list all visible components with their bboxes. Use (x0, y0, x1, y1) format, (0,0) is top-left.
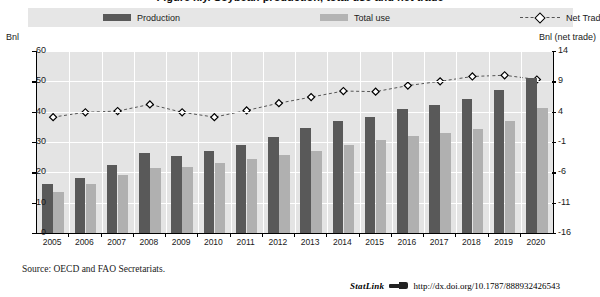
y-tick-right--11: -11 (558, 197, 592, 207)
x-tickmark-2019 (488, 233, 489, 237)
chart-title-clipped: Figure x.y. Soybean production, total us… (0, 0, 600, 3)
y-tick-right--16: -16 (558, 227, 592, 237)
y-tickmark-right--1 (552, 142, 556, 143)
y-tick-left-60: 60 (16, 45, 46, 55)
net-trade-marker-2018 (469, 73, 476, 80)
gridline-vertical (456, 51, 457, 233)
y-tick-left-40: 40 (16, 106, 46, 116)
gridline-vertical (360, 51, 361, 233)
y-axis-title-left: Bnl (6, 32, 19, 42)
x-tickmark-2010 (197, 233, 198, 237)
bar-total-use-2008 (150, 168, 161, 233)
net-trade-marker-2010 (211, 114, 218, 121)
bar-production-2012 (268, 137, 279, 233)
y-tickmark-right--16 (552, 233, 556, 234)
legend-item-net-trade: Net Trade (520, 13, 600, 23)
y-tickmark-right--11 (552, 203, 556, 204)
bar-production-2018 (462, 99, 473, 233)
gridline-vertical (102, 51, 103, 233)
statlink-label: StatLink (350, 281, 384, 291)
legend-label-production: Production (137, 13, 180, 23)
x-tick-label-2020: 2020 (516, 237, 556, 247)
bar-production-2015 (365, 117, 376, 233)
bar-production-2007 (107, 165, 118, 233)
net-trade-marker-2019 (501, 72, 508, 79)
legend-item-production: Production (103, 13, 180, 23)
y-tick-right-9: 9 (558, 75, 592, 85)
y-tickmark-left-60 (32, 51, 36, 52)
y-tickmark-left-10 (32, 203, 36, 204)
y-tick-right-14: 14 (558, 45, 592, 55)
legend-label-net-trade: Net Trade (566, 13, 600, 23)
bar-total-use-2019 (505, 121, 516, 233)
bar-production-2011 (236, 145, 247, 233)
bar-production-2017 (429, 105, 440, 233)
net-trade-marker-2014 (340, 88, 347, 95)
x-tickmark-2012 (262, 233, 263, 237)
bar-production-2010 (204, 151, 215, 233)
gridline-vertical (295, 51, 296, 233)
net-trade-marker-2016 (404, 82, 411, 89)
gridline-vertical (327, 51, 328, 233)
x-tickmark-2008 (133, 233, 134, 237)
bar-production-2005 (42, 184, 53, 233)
bar-production-2020 (526, 78, 537, 233)
y-tick-right-4: 4 (558, 106, 592, 116)
x-tickmark-2007 (101, 233, 102, 237)
bar-total-use-2006 (86, 184, 97, 233)
bar-production-2008 (139, 153, 150, 233)
y-tickmark-left-40 (32, 112, 36, 113)
net-trade-marker-2012 (275, 100, 282, 107)
bar-swatch-dark-icon (103, 14, 131, 21)
bar-production-2009 (171, 156, 182, 233)
bar-production-2014 (333, 121, 344, 233)
y-tickmark-right-4 (552, 112, 556, 113)
net-trade-marker-2008 (146, 101, 153, 108)
x-tickmark-2011 (230, 233, 231, 237)
bar-total-use-2005 (53, 192, 64, 233)
gridline-vertical (521, 51, 522, 233)
bar-production-2016 (397, 109, 408, 233)
y-tickmark-left-20 (32, 172, 36, 173)
net-trade-marker-2013 (308, 94, 315, 101)
bar-production-2006 (75, 178, 86, 233)
gridline-vertical (489, 51, 490, 233)
bar-total-use-2017 (440, 133, 451, 233)
x-tickmark-2009 (165, 233, 166, 237)
page-title: Figure x.y. Soybean production, total us… (0, 0, 600, 3)
x-tickmark-2016 (391, 233, 392, 237)
bar-total-use-2015 (376, 140, 387, 233)
statlink-row[interactable]: StatLink http://dx.doi.org/10.1787/88893… (350, 281, 560, 291)
y-tickmark-left-0 (32, 233, 36, 234)
bar-total-use-2011 (247, 159, 258, 233)
x-tickmark-2017 (423, 233, 424, 237)
y-tick-left-50: 50 (16, 75, 46, 85)
gridline-vertical (134, 51, 135, 233)
gridline-vertical (231, 51, 232, 233)
gridline-vertical (263, 51, 264, 233)
y-tickmark-right-14 (552, 51, 556, 52)
y-tick-left-30: 30 (16, 136, 46, 146)
y-tick-left-10: 10 (16, 197, 46, 207)
net-trade-marker-2011 (243, 107, 250, 114)
diamond-marker-dashed-line-icon (520, 13, 560, 22)
x-tickmark-2014 (326, 233, 327, 237)
legend-item-total-use: Total use (320, 13, 390, 23)
net-trade-marker-2005 (50, 114, 57, 121)
y-tickmark-left-50 (32, 81, 36, 82)
source-note: Source: OECD and FAO Secretariats. (22, 264, 165, 274)
y-tick-left-20: 20 (16, 166, 46, 176)
y-tickmark-right-9 (552, 81, 556, 82)
chart-figure: Figure x.y. Soybean production, total us… (0, 0, 600, 297)
bar-total-use-2018 (473, 129, 484, 233)
legend-label-total-use: Total use (354, 13, 390, 23)
plot-area (36, 51, 554, 234)
net-trade-marker-2015 (372, 88, 379, 95)
gridline-vertical (166, 51, 167, 233)
statlink-url[interactable]: http://dx.doi.org/10.1787/888932426543 (413, 281, 560, 291)
bar-total-use-2012 (279, 155, 290, 233)
gridline-vertical (392, 51, 393, 233)
y-tick-left-0: 0 (16, 227, 46, 237)
bar-total-use-2020 (537, 108, 548, 233)
bar-total-use-2007 (118, 175, 129, 233)
